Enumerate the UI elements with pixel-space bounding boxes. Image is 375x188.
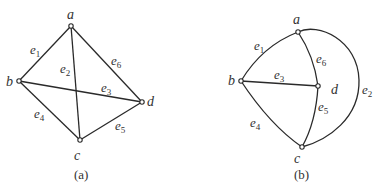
edge-a-e2 [71, 26, 80, 140]
diagram-a: a b c d e1 e2 e3 e4 e5 e6 (a) [6, 7, 155, 182]
edge-label-b-e4: e4 [250, 115, 261, 132]
vertex-b-d [316, 84, 320, 88]
vertex-a-c [78, 138, 82, 142]
edge-b-e6 [298, 32, 318, 86]
edge-b-e4 [241, 81, 302, 147]
edge-b-e5 [302, 86, 318, 147]
vertex-label-b-c: c [294, 151, 301, 166]
edge-label-b-e3: e3 [274, 67, 285, 84]
edge-label-b-e2: e2 [362, 82, 372, 99]
vertex-label-b-d: d [331, 82, 339, 97]
edge-label-b-e1: e1 [254, 38, 264, 55]
edge-label-a-e6: e6 [111, 53, 122, 70]
vertex-b-c [300, 145, 304, 149]
vertex-label-a-a: a [67, 7, 74, 22]
vertex-b-b [239, 79, 243, 83]
caption-a: (a) [74, 167, 88, 182]
graph-figure: a b c d e1 e2 e3 e4 e5 e6 (a) a b c d e1 [0, 0, 375, 188]
vertex-a-a [69, 24, 73, 28]
diagram-b: a b c d e1 e2 e3 e4 e5 e6 (b) [228, 12, 372, 182]
edge-b-e1 [241, 32, 298, 81]
edge-label-a-e2: e2 [60, 61, 70, 78]
vertex-label-a-b: b [6, 74, 13, 89]
vertex-a-d [140, 100, 144, 104]
edge-label-a-e5: e5 [115, 118, 126, 135]
caption-b: (b) [294, 167, 309, 182]
edge-label-a-e3: e3 [101, 80, 112, 97]
edge-label-b-e5: e5 [318, 99, 329, 116]
vertex-label-a-d: d [147, 94, 155, 109]
edge-label-b-e6: e6 [316, 51, 327, 68]
edge-label-a-e4: e4 [34, 106, 45, 123]
edge-a-e5 [80, 102, 142, 140]
edge-label-a-e1: e1 [30, 42, 40, 59]
vertex-label-a-c: c [74, 148, 81, 163]
vertex-label-b-b: b [228, 73, 235, 88]
vertex-b-a [296, 30, 300, 34]
vertex-a-b [17, 79, 21, 83]
vertex-label-b-a: a [293, 12, 300, 27]
